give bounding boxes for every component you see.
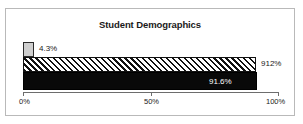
bar-label-series-3: 91.6%	[209, 77, 232, 86]
x-axis-label-50: 50%	[144, 97, 159, 106]
bar-label-series-2: 912%	[261, 59, 281, 68]
plot-area: 4.3% 912% 91.6%	[23, 42, 278, 92]
x-axis-label-0: 0%	[19, 97, 30, 106]
bar-series-1	[23, 42, 34, 57]
bar-series-2	[23, 57, 256, 72]
x-axis-tick-50	[151, 92, 152, 96]
x-axis-label-100: 100%	[266, 97, 285, 106]
chart-frame: Student Demographics 4.3% 912% 91.6% 0% …	[5, 8, 295, 116]
bar-label-series-1: 4.3%	[39, 44, 57, 53]
x-axis-tick-100	[278, 92, 279, 96]
chart-title: Student Demographics	[6, 19, 294, 30]
x-axis-tick-0	[23, 92, 24, 96]
